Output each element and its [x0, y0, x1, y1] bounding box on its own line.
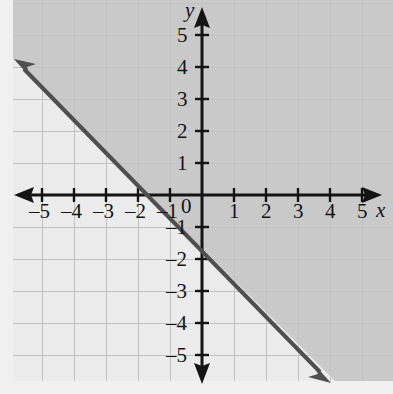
x-tick-label-3: 3	[293, 201, 304, 222]
x-tick-label--2: –2	[125, 201, 146, 222]
y-tick-label--4: –4	[166, 313, 187, 334]
y-tick-label--2: –2	[166, 249, 187, 270]
y-tick-label-1: 1	[177, 153, 188, 174]
x-tick-label-4: 4	[325, 201, 336, 222]
y-tick-label-2: 2	[177, 121, 188, 142]
y-tick-label-4: 4	[177, 57, 188, 78]
y-tick-label--5: –5	[166, 345, 187, 366]
y-tick-label--3: –3	[166, 281, 187, 302]
origin-label: 0	[181, 196, 192, 217]
x-tick-label-5: 5	[357, 201, 368, 222]
coordinate-plane-svg	[0, 0, 393, 394]
x-tick-label-1: 1	[229, 201, 240, 222]
x-tick-label--5: –5	[29, 201, 50, 222]
graph-figure: –5 –4 –3 –2 –1 1 2 3 4 5 0 5 4 3 2 1 –1 …	[0, 0, 393, 394]
x-axis-label: x	[376, 200, 385, 221]
left-margin-strip	[0, 0, 13, 394]
y-tick-label--1: –1	[166, 217, 187, 238]
y-tick-label-3: 3	[177, 89, 188, 110]
x-tick-label-2: 2	[261, 201, 272, 222]
bottom-margin-strip	[0, 381, 393, 394]
plot-area: –5 –4 –3 –2 –1 1 2 3 4 5 0 5 4 3 2 1 –1 …	[0, 0, 393, 394]
x-tick-label--3: –3	[93, 201, 114, 222]
y-tick-label-5: 5	[177, 25, 188, 46]
x-tick-label--4: –4	[61, 201, 82, 222]
y-axis-label: y	[185, 0, 194, 21]
